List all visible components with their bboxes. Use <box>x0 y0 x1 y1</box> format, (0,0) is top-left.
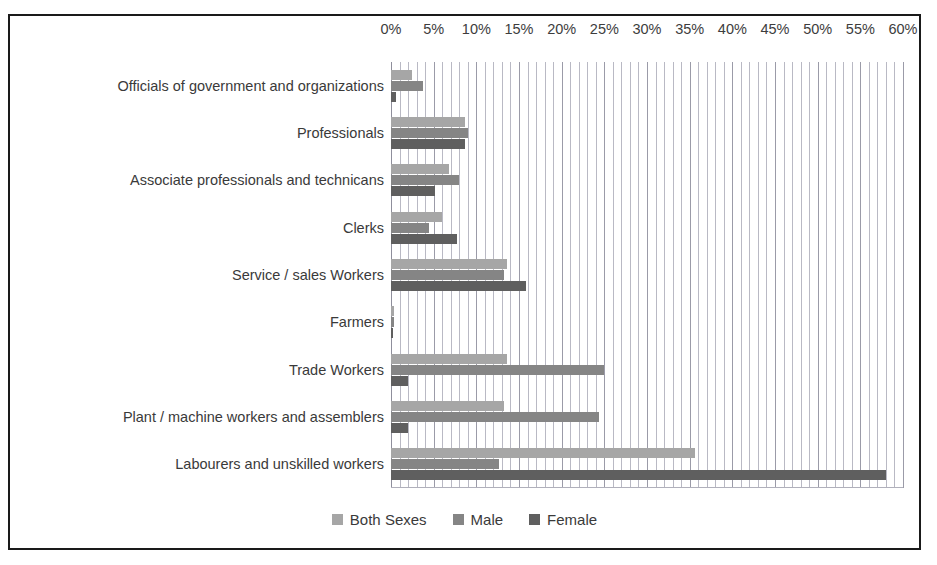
bar-female <box>391 92 396 102</box>
x-tick-60: 60% <box>888 16 917 42</box>
bar-both <box>391 70 412 80</box>
bar-both <box>391 117 465 127</box>
bar-male <box>391 365 604 375</box>
bar-female <box>391 281 526 291</box>
category-label: Labourers and unskilled workers <box>24 456 384 472</box>
bar-both <box>391 354 507 364</box>
bar-male <box>391 223 429 233</box>
bar-male <box>391 81 423 91</box>
legend-item-female[interactable]: Female <box>529 511 597 528</box>
bar-both <box>391 259 507 269</box>
x-tick-15: 15% <box>504 16 533 42</box>
category-label: Officials of government and organization… <box>24 78 384 94</box>
category-label: Trade Workers <box>24 362 384 378</box>
bar-both <box>391 448 695 458</box>
bar-female <box>391 139 465 149</box>
x-tick-20: 20% <box>547 16 576 42</box>
category-label: Associate professionals and technicans <box>24 172 384 188</box>
bar-female <box>391 234 457 244</box>
bar-male <box>391 270 504 280</box>
gridline-60 <box>903 62 904 488</box>
x-tick-50: 50% <box>803 16 832 42</box>
bar-male <box>391 412 599 422</box>
legend-swatch-female-icon <box>529 514 540 525</box>
chart-container: 0%5%10%15%20%25%30%35%40%45%50%55%60% Of… <box>8 14 921 550</box>
bar-male <box>391 459 499 469</box>
bar-both <box>391 212 442 222</box>
x-tick-25: 25% <box>590 16 619 42</box>
category-label: Plant / machine workers and assemblers <box>24 409 384 425</box>
bar-female <box>391 423 408 433</box>
legend-item-male[interactable]: Male <box>453 511 504 528</box>
bar-male <box>391 128 468 138</box>
x-tick-10: 10% <box>462 16 491 42</box>
bar-both <box>391 306 394 316</box>
bar-female <box>391 328 393 338</box>
bar-female <box>391 470 886 480</box>
x-tick-35: 35% <box>675 16 704 42</box>
x-tick-45: 45% <box>760 16 789 42</box>
x-tick-0: 0% <box>381 16 402 42</box>
category-label: Service / sales Workers <box>24 267 384 283</box>
x-tick-55: 55% <box>846 16 875 42</box>
bar-male <box>391 317 394 327</box>
x-tick-30: 30% <box>632 16 661 42</box>
legend-swatch-both-icon <box>332 514 343 525</box>
bar-female <box>391 376 408 386</box>
category-label: Clerks <box>24 220 384 236</box>
y-axis-category-labels: Officials of government and organization… <box>24 62 384 488</box>
category-label: Professionals <box>24 125 384 141</box>
chart-legend: Both SexesMaleFemale <box>10 511 919 528</box>
axis-baseline <box>391 487 903 488</box>
legend-label: Female <box>547 511 597 528</box>
legend-swatch-male-icon <box>453 514 464 525</box>
bar-series-group <box>391 62 903 488</box>
legend-label: Both Sexes <box>350 511 427 528</box>
category-label: Farmers <box>24 314 384 330</box>
bar-both <box>391 164 449 174</box>
bar-both <box>391 401 504 411</box>
bar-male <box>391 175 459 185</box>
x-tick-5: 5% <box>423 16 444 42</box>
legend-item-both[interactable]: Both Sexes <box>332 511 427 528</box>
bar-female <box>391 186 435 196</box>
x-axis-tick-labels: 0%5%10%15%20%25%30%35%40%45%50%55%60% <box>10 16 919 42</box>
plot-area <box>391 62 903 488</box>
legend-label: Male <box>471 511 504 528</box>
x-tick-40: 40% <box>718 16 747 42</box>
